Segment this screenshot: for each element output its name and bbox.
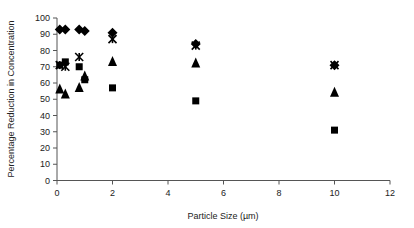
square-point — [76, 63, 83, 70]
x-axis-ticks: 024681012 — [54, 181, 395, 198]
y-tick-label: 30 — [40, 127, 50, 137]
triangle-point — [108, 56, 117, 66]
square-point — [331, 127, 338, 134]
triangle-point — [80, 71, 89, 81]
y-tick-label: 10 — [40, 159, 50, 169]
y-tick-label: 90 — [40, 29, 50, 39]
scatter-chart: 0102030405060708090100 024681012 Particl… — [0, 0, 414, 228]
x-tick-label: 2 — [110, 188, 115, 198]
y-tick-label: 70 — [40, 62, 50, 72]
y-tick-label: 0 — [45, 176, 50, 186]
x-tick-label: 4 — [165, 188, 170, 198]
asterisk-point — [75, 53, 83, 61]
x-tick-label: 12 — [385, 188, 395, 198]
y-axis-ticks: 0102030405060708090100 — [35, 13, 57, 186]
square-point — [109, 84, 116, 91]
x-axis-title: Particle Size (µm) — [187, 211, 258, 221]
y-tick-label: 100 — [35, 13, 50, 23]
y-tick-label: 50 — [40, 94, 50, 104]
square-point — [192, 97, 199, 104]
triangle-point — [191, 58, 200, 68]
y-tick-label: 20 — [40, 143, 50, 153]
x-tick-label: 6 — [221, 188, 226, 198]
asterisk-point — [109, 35, 117, 43]
y-tick-label: 80 — [40, 46, 50, 56]
y-tick-label: 40 — [40, 111, 50, 121]
triangle-point — [75, 82, 84, 92]
x-tick-label: 8 — [276, 188, 281, 198]
data-points — [55, 24, 340, 133]
axes — [57, 18, 390, 181]
diamond-point — [60, 24, 70, 34]
x-tick-label: 10 — [329, 188, 339, 198]
triangle-point — [330, 87, 339, 97]
y-axis-title: Percentage Reduction in Concentration — [6, 20, 16, 177]
x-tick-label: 0 — [54, 188, 59, 198]
y-tick-label: 60 — [40, 78, 50, 88]
square-point — [62, 58, 69, 65]
